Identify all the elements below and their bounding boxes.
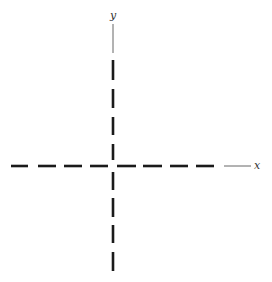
y-axis-label: y xyxy=(109,9,117,22)
coordinate-axes-diagram: x y xyxy=(0,0,272,282)
x-axis-label: x xyxy=(254,159,261,172)
